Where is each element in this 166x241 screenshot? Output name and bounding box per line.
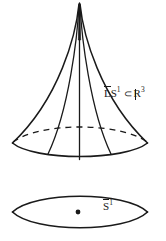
diagram-canvas: [0, 0, 166, 241]
lens-shape-group: [13, 196, 148, 228]
lens-lower-arc: [13, 212, 148, 228]
cone-label-overline-letter: L: [104, 88, 111, 99]
cone-ruling-right-inner: [80, 5, 111, 154]
cone-label: LS1⊂R3: [104, 88, 145, 99]
ambient-space-letter: R: [134, 88, 141, 99]
lens-upper-arc: [13, 196, 148, 212]
ambient-space-exponent: 3: [141, 85, 145, 94]
lens-label: S1: [103, 201, 113, 212]
lens-label-overline-letter: S: [103, 201, 109, 212]
figure-container: LS1⊂R3 S1: [0, 0, 166, 241]
cone-ruling-left-inner: [48, 5, 79, 154]
cone-left-boundary-curve: [13, 4, 80, 143]
lens-label-exponent: 1: [109, 198, 113, 207]
cone-surface-group: [13, 3, 148, 160]
lens-center-dot: [76, 210, 81, 215]
subset-symbol: ⊂: [121, 88, 134, 99]
cone-right-boundary-curve: [80, 4, 148, 143]
